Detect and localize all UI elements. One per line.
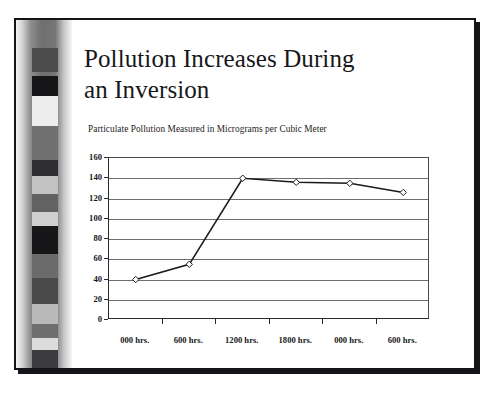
y-axis-tick-label: 100 xyxy=(75,213,102,223)
x-axis-tick-label: 600 hrs. xyxy=(388,335,417,345)
y-axis-tick-label: 140 xyxy=(75,172,102,182)
grayscale-calibration-strip xyxy=(16,20,72,368)
y-axis-tick-label: 80 xyxy=(75,233,102,243)
filmstrip-patch-5 xyxy=(32,176,58,194)
x-axis-tick-mark xyxy=(322,319,323,324)
filmstrip-patch-11 xyxy=(32,304,58,324)
filmstrip-patch-10 xyxy=(32,278,58,304)
y-axis-tick-mark xyxy=(104,258,108,259)
line-chart: 020406080100120140160000 hrs.600 hrs.120… xyxy=(75,150,470,350)
x-axis-tick-mark xyxy=(376,319,377,324)
page-title-line-1: Pollution Increases During xyxy=(84,44,424,75)
filmstrip-patch-12 xyxy=(32,324,58,338)
y-axis-tick-label: 0 xyxy=(75,314,102,324)
filmstrip-patch-6 xyxy=(32,194,58,212)
x-axis-tick-mark xyxy=(269,319,270,324)
x-axis-tick-label: 000 hrs. xyxy=(334,335,363,345)
y-axis-tick-label: 120 xyxy=(75,193,102,203)
x-axis-tick-label: 1200 hrs. xyxy=(225,335,258,345)
chart-title: Particulate Pollution Measured in Microg… xyxy=(88,124,428,134)
y-axis-tick-mark xyxy=(104,177,108,178)
data-point-marker xyxy=(347,180,353,186)
filmstrip-patch-column xyxy=(32,20,58,368)
page-title-line-2: an Inversion xyxy=(84,75,424,106)
filmstrip-patch-1 xyxy=(32,76,58,96)
y-axis-tick-mark xyxy=(104,218,108,219)
x-axis-tick-mark xyxy=(215,319,216,324)
filmstrip-patch-9 xyxy=(32,254,58,278)
y-axis-tick-mark xyxy=(104,279,108,280)
slide-screenshot: Pollution Increases During an Inversion … xyxy=(0,0,494,393)
filmstrip-patch-0 xyxy=(32,48,58,72)
y-axis-tick-mark xyxy=(104,238,108,239)
page-title: Pollution Increases During an Inversion xyxy=(84,44,424,105)
filmstrip-patch-14 xyxy=(32,350,58,368)
y-axis-tick-mark xyxy=(104,198,108,199)
y-axis-tick-mark xyxy=(104,319,108,320)
y-axis-tick-label: 60 xyxy=(75,253,102,263)
y-axis-tick-mark xyxy=(104,299,108,300)
data-point-marker xyxy=(133,276,139,282)
y-axis-tick-label: 20 xyxy=(75,294,102,304)
filmstrip-patch-8 xyxy=(32,226,58,254)
y-axis-tick-label: 160 xyxy=(75,152,102,162)
data-point-marker xyxy=(400,189,406,195)
filmstrip-patch-7 xyxy=(32,212,58,226)
y-axis-tick-mark xyxy=(104,157,108,158)
y-axis-tick-label: 40 xyxy=(75,274,102,284)
x-axis-tick-label: 600 hrs. xyxy=(174,335,203,345)
x-axis-tick-label: 000 hrs. xyxy=(120,335,149,345)
filmstrip-patch-4 xyxy=(32,160,58,176)
filmstrip-patch-2 xyxy=(32,96,58,126)
filmstrip-patch-3 xyxy=(32,126,58,160)
chart-plot-area xyxy=(108,157,429,319)
series-line xyxy=(136,178,404,279)
data-point-marker xyxy=(293,179,299,185)
filmstrip-patch-13 xyxy=(32,338,58,350)
x-axis-tick-label: 1800 hrs. xyxy=(279,335,312,345)
x-axis-tick-mark xyxy=(162,319,163,324)
series-layer xyxy=(109,158,430,320)
